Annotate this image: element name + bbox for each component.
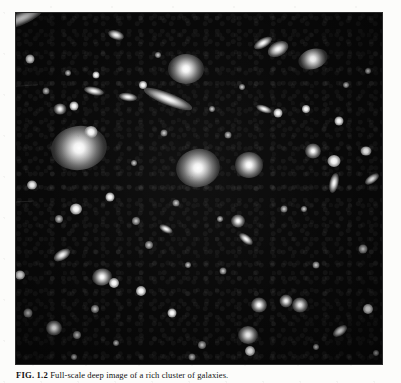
galaxy-lower-point-4 [145,241,153,249]
galaxy-right-bottom-2 [251,298,267,313]
galaxy-center-faint-8 [343,82,349,88]
galaxy-point-mid-1 [139,81,147,89]
galaxy-right-streak [328,172,341,193]
figure-plate-container [16,13,382,364]
galaxy-right-upper [265,38,291,61]
galaxy-far-right-disk [363,171,381,187]
galaxy-left-lower-2 [55,215,63,223]
galaxy-pair-left-top [54,104,67,115]
galaxy-center-faint-6 [65,70,71,76]
galaxy-bottom-mid-core [245,346,255,356]
galaxy-lower-point-2 [106,193,115,202]
galaxy-center-faint-4 [131,160,137,166]
galaxy-giant-left [48,122,110,173]
galaxy-disk-top-mid [107,28,125,42]
galaxy-bright-top-right [168,54,204,84]
galaxy-lower-left-disk [52,246,73,264]
galaxy-right-far-3 [281,206,288,213]
astronomical-photograph [16,13,382,364]
scan-streak-left [16,201,34,203]
galaxy-mid-bottom-1 [168,309,177,318]
galaxy-point-center-2 [173,200,180,207]
galaxy-bottom-right-2 [363,304,373,314]
figure-caption: FIG. 1.2 Full-scale deep image of a rich… [16,370,386,383]
galaxy-center-faint-10 [217,216,223,222]
galaxy-center-faint-15 [373,350,379,356]
galaxy-lower-point-1 [70,204,82,215]
galaxy-center-faint-12 [313,344,319,350]
galaxy-point-mid-2 [161,130,168,137]
galaxy-right-upper-b [296,45,331,73]
galaxy-right-bottom-pair-b [292,298,308,313]
document-page: FIG. 1.2 Full-scale deep image of a rich… [0,0,401,383]
galaxy-center-faint-9 [365,68,371,74]
galaxy-bottom-left-3 [16,271,25,280]
galaxy-lower-point-3 [132,217,140,225]
galaxy-bottom-left-2 [73,331,81,339]
galaxy-left-disk-2 [24,309,33,318]
galaxy-companion-left [85,126,98,138]
galaxy-bottom-mid-bright [238,326,258,344]
galaxy-bottom-left-bright [46,321,62,336]
galaxy-center-dominant [173,145,224,191]
galaxy-lower-point-6 [91,305,99,313]
galaxy-lower-point-5 [136,286,146,296]
photo-vignette-overlay [16,13,382,364]
galaxy-center-faint-3 [239,84,245,90]
galaxy-right-bottom-1 [231,215,245,228]
figure-number: FIG. 1.2 [16,370,48,380]
galaxy-point-center-1 [225,132,232,139]
galaxy-right-mid-1 [274,109,283,118]
galaxy-disk-mid-left-b [119,92,138,102]
galaxy-right-bottom-disk [237,231,255,247]
galaxy-jet-top-right [142,84,195,115]
galaxy-right-far-4 [220,268,227,275]
galaxy-right-edge [361,147,372,156]
galaxy-right-lower-1 [305,144,321,159]
galaxy-left-lower-1 [27,181,37,190]
galaxy-right-bottom-pair-a [280,295,293,308]
galaxy-mid-lower-disk [158,223,174,235]
galaxy-center-faint-5 [155,52,161,58]
galaxy-right-far-1 [359,245,368,254]
galaxy-right-far-2 [313,262,320,269]
galaxy-right-mid-3 [335,117,344,126]
galaxy-point-top-mid [93,72,100,79]
galaxy-right-disk [255,103,272,115]
galaxy-center-faint-13 [189,354,196,361]
galaxy-disk-mid-left [83,85,104,97]
galaxy-bottom-right-disk [331,323,349,340]
galaxy-right-lower-2 [328,155,341,167]
galaxy-right-mid-2 [302,105,310,113]
scan-streak-upper-left [16,84,38,87]
galaxy-center-faint-11 [113,340,119,346]
galaxy-lower-mid-bright [90,266,114,287]
edge-on-spiral-top-left [16,13,46,33]
galaxy-faint-ul-1 [43,88,50,95]
figure-caption-text: Full-scale deep image of a rich cluster … [50,370,228,380]
galaxy-center-faint-14 [71,354,77,360]
galaxy-right-bright [235,152,263,178]
galaxy-center-faint-2 [209,106,215,112]
photo-grain-overlay [16,13,382,364]
galaxy-right-edge-on [252,34,274,52]
galaxy-pair-left-top-b [70,102,79,111]
galaxy-center-faint-1 [185,262,191,268]
galaxy-lower-mid-core [109,278,119,288]
galaxy-center-faint-7 [301,206,307,212]
galaxy-mid-bottom-2 [198,341,206,349]
galaxy-small-upper-left [26,55,35,64]
